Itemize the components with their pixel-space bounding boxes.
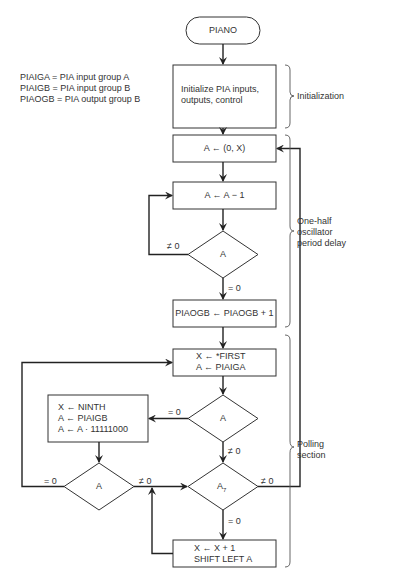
shift-label-1: X ← X + 1 — [194, 543, 235, 554]
brace-delay — [285, 135, 294, 327]
section-polling-1: Polling — [297, 439, 324, 450]
section-initialization: Initialization — [297, 91, 344, 102]
edge-a7-ne0: ≠ 0 — [261, 476, 273, 487]
edge-a7-eq0: = 0 — [228, 516, 241, 527]
edge-a3-eq0: = 0 — [44, 476, 57, 487]
test-a3-label: A — [64, 481, 134, 492]
edge-a3-ne0: ≠ 0 — [139, 476, 151, 487]
start-label: PIANO — [186, 25, 260, 36]
section-delay-2: oscillator — [297, 227, 333, 238]
legend-piaigb: PIAIGB = PIA input group B — [20, 83, 130, 94]
ninth-label-2: A ← PIAIGB — [58, 413, 108, 424]
first-label-2: A ← PIAIGA — [196, 362, 246, 373]
legend-piaiga: PIAIGA = PIA input group A — [20, 72, 129, 83]
test-a2-label: A — [188, 413, 258, 424]
inc-out-label: PIAOGB ← PIAOGB + 1 — [173, 308, 276, 319]
ninth-label-1: X ← NINTH — [58, 402, 106, 413]
section-delay-1: One-half — [297, 216, 332, 227]
edge-a1-ne0: ≠ 0 — [167, 241, 179, 252]
test-a1-label: A — [188, 249, 258, 260]
test-a7-sub: 7 — [223, 487, 226, 493]
test-a7-label: A7 — [217, 481, 226, 496]
brace-initialization — [285, 65, 294, 128]
edge-a2-ne0: ≠ 0 — [228, 446, 240, 457]
load-a-label: A ← (0, X) — [173, 143, 276, 154]
section-polling-2: section — [297, 450, 326, 461]
shift-label-2: SHIFT LEFT A — [194, 554, 252, 565]
init-label-2: outputs, control — [181, 95, 243, 106]
edge-a1-eq0: = 0 — [228, 283, 241, 294]
init-label-1: Initialize PIA inputs, — [181, 84, 259, 95]
ninth-label-3: A ← A · 11111000 — [58, 424, 128, 435]
dec-a-label: A ← A − 1 — [173, 190, 276, 201]
legend-piaogb: PIAOGB = PIA output group B — [20, 94, 140, 105]
section-delay-3: period delay — [297, 238, 346, 249]
brace-polling — [285, 335, 294, 567]
edge-a2-eq0: = 0 — [168, 407, 181, 418]
first-label-1: X ← *FIRST — [196, 351, 246, 362]
